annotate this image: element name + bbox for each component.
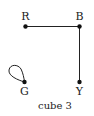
node-r [23,24,27,28]
node-y [77,80,81,84]
label-y: Y [75,85,84,98]
label-r: R [21,10,30,23]
label-g: G [20,85,29,98]
node-g [22,80,26,84]
caption: cube 3 [38,100,72,111]
node-b [77,24,81,28]
graph-diagram: R B G Y cube 3 [0,0,94,116]
edge-g-loop [9,65,25,82]
label-b: B [75,10,83,23]
